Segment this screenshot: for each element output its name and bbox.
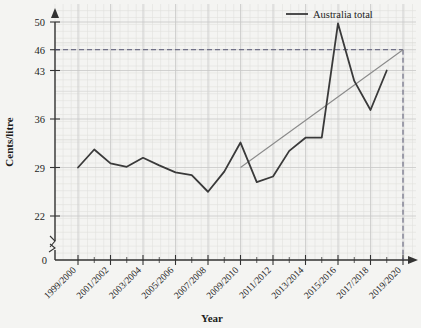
y-tick-label-22: 22 xyxy=(35,211,46,222)
y-tick-label-36: 36 xyxy=(35,114,46,125)
x-axis-title: Year xyxy=(201,312,223,324)
y-tick-label-46: 46 xyxy=(35,45,46,56)
y-axis-title: Cents/litre xyxy=(3,117,15,166)
y-tick-label-0: 0 xyxy=(42,255,47,266)
legend-label-australia-total: Australia total xyxy=(313,9,373,20)
line-chart: Australia total Year Cents/litre 5046433… xyxy=(0,0,421,328)
y-tick-label-29: 29 xyxy=(35,163,46,174)
y-tick-label-43: 43 xyxy=(35,66,46,77)
chart-container: Australia total Year Cents/litre 5046433… xyxy=(0,0,421,328)
y-tick-label-50: 50 xyxy=(35,17,46,28)
